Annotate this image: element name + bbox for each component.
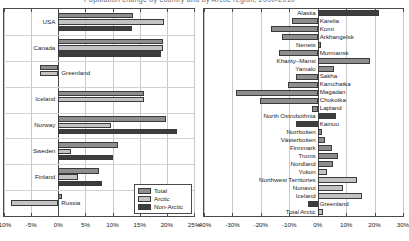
tick-x-25% — [194, 8, 195, 12]
bar-troms — [318, 153, 338, 159]
category-label-norrbotten: Norrbotten — [286, 129, 315, 135]
category-label-sweden: Sweden — [33, 148, 55, 154]
x-tick-label-right--20%: -20% — [254, 221, 268, 228]
tick-x-0% — [58, 213, 59, 217]
x-tick-label-right-30%: 30% — [397, 221, 409, 228]
category-label-finland: Finland — [35, 174, 55, 180]
category-label-sakha: Sakha — [320, 73, 338, 79]
gridline-x-10% — [346, 9, 347, 216]
chart-legend-left: TotalArcticNon-Arctic — [134, 184, 192, 214]
category-label-kainuu: Kainuu — [320, 121, 339, 127]
bar-usa-non_arctic — [58, 26, 132, 31]
bar-murmansk — [279, 50, 317, 56]
plot-area-right: AlaskaKareliaKomiArkhangelskNenetsMurman… — [204, 9, 403, 216]
legend-item-arctic[interactable]: Arctic — [138, 195, 188, 203]
figure-caption-text: Population change by country and by Arct… — [84, 0, 295, 3]
x-tick-label-right-0%: 0% — [313, 221, 322, 228]
category-label-north-ostrobothnia: North Ostrobothnia — [263, 113, 315, 119]
category-label-alaska: Alaska — [297, 10, 316, 16]
group-separator — [4, 87, 194, 88]
group-separator — [4, 138, 194, 139]
bar-nordland — [318, 161, 334, 167]
category-label-arkhangelsk: Arkhangelsk — [320, 34, 354, 40]
category-label-nunavut: Nunavut — [293, 185, 316, 191]
tick-x-5% — [85, 8, 86, 12]
bar-greenland — [308, 201, 318, 207]
category-label-murmansk: Murmansk — [320, 50, 349, 56]
category-label-komi: Komi — [320, 26, 334, 32]
tick-x-25% — [194, 213, 195, 217]
legend-label: Non-Arctic — [154, 204, 183, 210]
tick-x--5% — [31, 213, 32, 217]
x-tick-label-right--30%: -30% — [225, 221, 239, 228]
group-separator — [4, 164, 194, 165]
bar-usa-total — [58, 13, 133, 18]
bar-kamchatka — [288, 82, 318, 88]
gridline-x--40% — [204, 9, 205, 216]
bar-alaska — [318, 10, 379, 16]
tick-x--40% — [204, 213, 205, 217]
bar-norrbotten — [318, 129, 323, 135]
x-axis-labels-right: -40%-30%-20%-10%0%10%20%30% — [0, 219, 407, 231]
gridline-x--30% — [232, 9, 233, 216]
bar-lapland — [312, 106, 318, 112]
group-separator — [4, 61, 194, 62]
bar-iceland-arctic — [58, 97, 143, 102]
bar-usa-arctic — [58, 19, 163, 24]
tick-x--20% — [261, 8, 262, 12]
bar-finland-arctic — [58, 174, 78, 179]
bar-greenland-total — [40, 65, 58, 70]
category-label-canada: Canada — [34, 45, 56, 51]
bar-v-sterbotten — [318, 137, 326, 143]
category-label-russia: Russia — [61, 200, 80, 206]
tick-x--10% — [289, 8, 290, 12]
bar-canada-arctic — [58, 45, 163, 50]
gridline-x-30% — [403, 9, 404, 216]
legend-swatch-arctic-icon — [138, 196, 151, 202]
tick-x-10% — [113, 213, 114, 217]
tick-x--5% — [31, 8, 32, 12]
bar-iceland — [318, 193, 363, 199]
bar-norway-arctic — [58, 123, 111, 128]
bar-canada-non_arctic — [58, 51, 161, 56]
category-label-total-arctic: Total Arctic — [286, 209, 316, 215]
category-label-karelia: Karelia — [320, 18, 339, 24]
tick-x-5% — [85, 213, 86, 217]
category-label-norway: Norway — [34, 122, 55, 128]
legend-swatch-total-icon — [138, 188, 151, 194]
legend-item-non-arctic[interactable]: Non-Arctic — [138, 203, 188, 211]
bar-north-ostrobothnia — [318, 113, 336, 119]
bar-magadan — [236, 90, 318, 96]
bar-yamalo — [318, 66, 334, 72]
category-label-yamalo: Yamalo — [295, 66, 316, 72]
chart-panel-right: AlaskaKareliaKomiArkhangelskNenetsMurman… — [203, 8, 404, 217]
chart-panel-left: USACanadaGreenlandIcelandNorwaySwedenFin… — [3, 8, 195, 217]
bar-nunavut — [318, 185, 343, 191]
bar-sweden-arctic — [58, 149, 71, 154]
bar-norway-non_arctic — [58, 129, 177, 134]
x-tick-label-right-20%: 20% — [368, 221, 380, 228]
category-label-magadan: Magadan — [320, 89, 346, 95]
bar-karelia — [292, 18, 317, 24]
tick-x-30% — [403, 8, 404, 12]
bar-khanty-mansi — [318, 58, 370, 64]
category-label-nenets: Nenets — [296, 42, 316, 48]
tick-x-10% — [346, 213, 347, 217]
category-label-greenland: Greenland — [320, 201, 349, 207]
category-label-yukon: Yukon — [299, 169, 316, 175]
tick-x-0% — [58, 8, 59, 12]
bar-komi — [271, 26, 318, 32]
bar-arkhangelsk — [282, 34, 317, 40]
bar-sweden-total — [58, 142, 118, 147]
legend-item-total[interactable]: Total — [138, 187, 188, 195]
legend-label: Arctic — [154, 196, 169, 202]
legend-swatch-non-arctic-icon — [138, 204, 151, 210]
category-label-troms: Troms — [298, 153, 315, 159]
bar-finland-non_arctic — [58, 181, 101, 186]
bar-kainuu — [296, 121, 318, 127]
bar-finland-total — [58, 168, 99, 173]
bar-northwest-territories — [318, 177, 357, 183]
bar-iceland-total — [58, 91, 143, 96]
bar-nenets — [318, 42, 321, 48]
